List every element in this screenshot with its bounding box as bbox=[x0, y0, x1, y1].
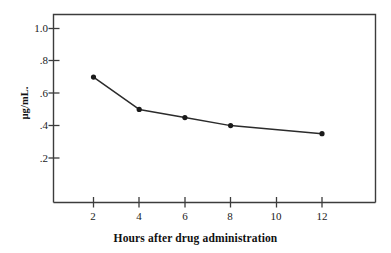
y-tick-label-2: .8 bbox=[14, 55, 48, 66]
x-tick-label-1: 2 bbox=[90, 211, 96, 222]
x-tick-label-4: 8 bbox=[227, 211, 233, 222]
y-tick-label-5: .2 bbox=[14, 153, 48, 164]
x-tick-label-6: 12 bbox=[317, 211, 328, 222]
x-tick-label-3: 6 bbox=[182, 211, 188, 222]
data-series-plasma-concentration bbox=[91, 74, 325, 136]
y-tick-label-4: .4 bbox=[14, 120, 48, 131]
y-axis-title: µg/mL. bbox=[19, 86, 30, 119]
data-point bbox=[137, 107, 142, 112]
x-tick-label-2: 4 bbox=[136, 211, 142, 222]
data-point bbox=[91, 74, 96, 79]
data-point bbox=[319, 131, 324, 136]
y-tick-label-1: 1.0 bbox=[14, 23, 48, 34]
x-tick-label-5: 10 bbox=[271, 211, 282, 222]
chart-canvas bbox=[0, 0, 391, 253]
plot-frame bbox=[54, 15, 376, 203]
x-axis-title: Hours after drug administration bbox=[0, 232, 391, 244]
data-point bbox=[228, 123, 233, 128]
series-line bbox=[94, 77, 323, 134]
line-chart: 1.0 .8 .6 .4 .2 2 4 6 8 10 12 µg/mL. Hou… bbox=[0, 0, 391, 253]
series-markers bbox=[91, 74, 325, 136]
data-point bbox=[182, 115, 187, 120]
